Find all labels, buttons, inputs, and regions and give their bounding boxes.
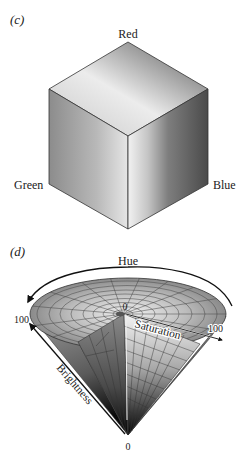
- panel-c-label: (c): [10, 12, 24, 27]
- panel-d-label: (d): [10, 244, 25, 259]
- rgb-cube: [49, 42, 208, 229]
- cone-center-dot: [116, 312, 124, 317]
- brightness-min-label: 0: [126, 441, 131, 452]
- vertex-label-green: Green: [14, 178, 43, 192]
- figure-canvas: (c) Red Green Blue (d) Hue: [0, 0, 250, 471]
- panel-c: (c) Red Green Blue: [10, 12, 236, 229]
- hue-label: Hue: [118, 254, 138, 268]
- saturation-min-label: 0: [123, 301, 128, 312]
- hsb-cone: [30, 277, 226, 435]
- vertex-label-blue: Blue: [213, 178, 236, 192]
- panel-d: (d) Hue: [10, 244, 232, 452]
- vertex-label-red: Red: [118, 27, 137, 41]
- saturation-max-label: 100: [208, 323, 223, 334]
- brightness-max-label: 100: [14, 314, 29, 325]
